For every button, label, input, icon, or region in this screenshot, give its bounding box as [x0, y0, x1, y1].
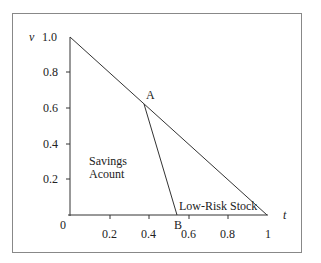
- x-ticks: [110, 215, 228, 219]
- x-tick-label-0.6: 0.6: [181, 228, 196, 241]
- y-tick-label-0.8: 0.8: [43, 66, 58, 79]
- v-axis-label: v: [29, 31, 34, 44]
- x-tick-label-0.8: 0.8: [220, 228, 235, 241]
- x-tick-label-1: 1: [265, 228, 271, 241]
- y-ticks: [66, 72, 70, 179]
- origin-label: 0: [60, 219, 66, 232]
- y-tick-label-1: 1.0: [42, 31, 57, 44]
- boundary-line: [70, 37, 267, 215]
- divider-line-a-b: [144, 104, 177, 215]
- y-tick-label-0.2: 0.2: [43, 173, 58, 186]
- point-b-label: B: [174, 219, 182, 232]
- y-tick-label-0.4: 0.4: [43, 138, 58, 151]
- point-a-label: A: [146, 89, 155, 102]
- t-axis-label: t: [283, 209, 286, 222]
- x-tick-label-0.2: 0.2: [102, 228, 117, 241]
- y-tick-label-0.6: 0.6: [43, 102, 58, 115]
- x-tick-label-0.4: 0.4: [141, 228, 156, 241]
- region-label-savings-line2: Acount: [89, 168, 124, 181]
- region-label-low-risk-stock: Low-Risk Stock: [179, 200, 257, 213]
